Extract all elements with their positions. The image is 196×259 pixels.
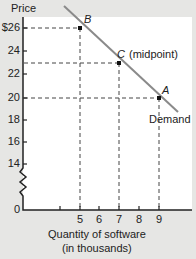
y-tick-16: 16	[0, 135, 20, 147]
x-tick-5: 5	[74, 213, 86, 225]
x-tick-8: 8	[133, 213, 145, 225]
point-c-marker	[117, 61, 121, 65]
x-tick-7: 7	[113, 213, 125, 225]
y-tick-0: 0	[0, 203, 20, 215]
demand-curve-label: Demand	[149, 113, 191, 125]
x-axis-label-line2: (in thousands)	[62, 242, 132, 254]
point-a-marker	[157, 96, 161, 100]
midpoint-annotation: (midpoint)	[129, 48, 178, 60]
point-b-marker	[78, 26, 82, 30]
x-tick-6: 6	[93, 213, 105, 225]
x-axis-label-line1: Quantity of software	[48, 228, 146, 240]
point-c-label: C	[117, 48, 125, 60]
point-b-label: B	[84, 13, 91, 25]
y-tick-22: 22	[0, 67, 20, 79]
y-axis-label: Price	[11, 2, 36, 14]
point-a-label: A	[162, 84, 169, 96]
y-tick-26: $26	[0, 21, 20, 33]
y-tick-24: 24	[0, 44, 20, 56]
y-tick-14: 14	[0, 157, 20, 169]
y-tick-20: 20	[0, 91, 20, 103]
x-tick-9: 9	[153, 213, 165, 225]
y-tick-18: 18	[0, 113, 20, 125]
